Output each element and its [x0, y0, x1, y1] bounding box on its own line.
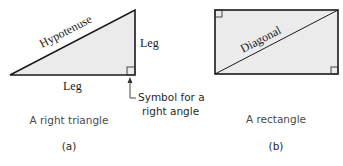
panel-b: Diagonal A rectangle (b) — [215, 10, 338, 152]
tag-a: (a) — [62, 140, 77, 152]
annotation-line-1: Symbol for a — [138, 91, 205, 103]
geometry-figure: Hypotenuse Leg Leg Symbol for a right an… — [0, 0, 343, 166]
tag-b: (b) — [269, 140, 284, 152]
caption-a: A right triangle — [29, 114, 108, 126]
annotation-arrow — [128, 77, 137, 98]
leg-bottom-label: Leg — [63, 79, 82, 93]
leg-right-label: Leg — [140, 36, 159, 50]
annotation-line-2: right angle — [142, 105, 199, 117]
caption-b: A rectangle — [246, 113, 306, 125]
panel-a: Hypotenuse Leg Leg Symbol for a right an… — [10, 10, 205, 152]
